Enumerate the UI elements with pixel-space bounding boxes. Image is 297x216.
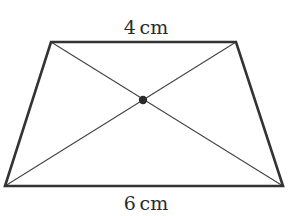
diagonal-intersection-dot <box>139 96 147 104</box>
bottom-side-label: 6 cm <box>124 192 169 214</box>
diagonal-top-left-to-bottom-right <box>51 42 283 186</box>
trapezium-outline <box>5 42 283 186</box>
diagonal-top-right-to-bottom-left <box>5 42 236 186</box>
top-side-label: 4 cm <box>124 16 169 38</box>
trapezium-diagram: 4 cm 6 cm <box>0 0 297 216</box>
